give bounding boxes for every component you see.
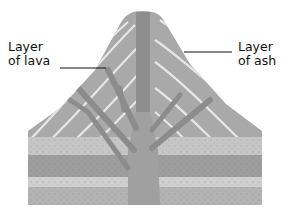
lava-label-line2: of lava — [8, 54, 50, 68]
ash-label-line2: of ash — [238, 54, 276, 68]
volcano-diagram — [0, 0, 283, 223]
ash-label-line1: Layer — [238, 40, 276, 54]
lava-label-line1: Layer — [8, 40, 50, 54]
ash-label: Layer of ash — [238, 40, 276, 68]
lava-label: Layer of lava — [8, 40, 50, 68]
volcano-cone — [0, 0, 283, 223]
